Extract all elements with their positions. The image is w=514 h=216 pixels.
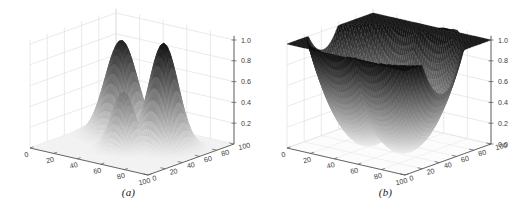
surface-plot-b-canvas: 0204060801000204060801000.00.20.40.60.81…	[257, 0, 514, 190]
svg-text:1.0: 1.0	[241, 36, 251, 45]
svg-text:80: 80	[116, 171, 126, 182]
svg-text:0.2: 0.2	[241, 119, 251, 128]
svg-text:0.8: 0.8	[498, 56, 508, 65]
svg-text:0.2: 0.2	[498, 119, 508, 128]
svg-text:20: 20	[169, 166, 179, 177]
subfigure-a-caption: (a)	[0, 186, 257, 198]
svg-text:80: 80	[477, 148, 487, 159]
svg-text:40: 40	[326, 160, 336, 171]
svg-text:80: 80	[220, 148, 230, 159]
svg-text:0.6: 0.6	[498, 77, 508, 86]
svg-text:60: 60	[349, 165, 359, 176]
surface-plot-a: 0204060801000204060801000.20.40.60.81.0	[0, 0, 257, 190]
svg-text:0.6: 0.6	[241, 77, 251, 86]
svg-text:0: 0	[151, 173, 157, 183]
svg-text:40: 40	[186, 160, 196, 171]
svg-text:40: 40	[443, 160, 453, 171]
svg-text:1.0: 1.0	[498, 36, 508, 45]
svg-text:60: 60	[203, 154, 213, 165]
svg-text:60: 60	[460, 154, 470, 165]
svg-text:0: 0	[23, 150, 29, 160]
surface-plot-b: 0204060801000204060801000.00.20.40.60.81…	[257, 0, 514, 190]
svg-text:0.4: 0.4	[241, 98, 251, 107]
figure-row: 0204060801000204060801000.20.40.60.81.0 …	[0, 0, 514, 216]
svg-text:0: 0	[408, 173, 414, 183]
subfigure-b: 0204060801000204060801000.00.20.40.60.81…	[257, 0, 514, 216]
surface-plot-a-canvas: 0204060801000204060801000.20.40.60.81.0	[0, 0, 257, 190]
svg-text:0.4: 0.4	[498, 98, 508, 107]
subfigure-b-caption: (b)	[257, 186, 514, 198]
svg-text:0.0: 0.0	[498, 140, 508, 149]
svg-text:0: 0	[280, 150, 286, 160]
svg-text:20: 20	[45, 155, 55, 166]
svg-text:0.8: 0.8	[241, 56, 251, 65]
svg-text:20: 20	[426, 166, 436, 177]
svg-text:40: 40	[69, 160, 79, 171]
svg-text:100: 100	[237, 140, 251, 151]
subfigure-a: 0204060801000204060801000.20.40.60.81.0 …	[0, 0, 257, 216]
svg-text:80: 80	[373, 171, 383, 182]
svg-text:20: 20	[302, 155, 312, 166]
svg-text:60: 60	[92, 165, 102, 176]
